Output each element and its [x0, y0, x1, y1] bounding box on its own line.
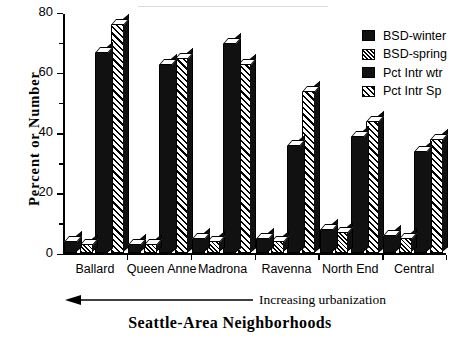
y-tick-minor	[59, 103, 63, 104]
legend-swatch-icon	[362, 86, 375, 97]
y-tick-label: 80	[39, 4, 53, 19]
bar-side-face	[299, 135, 305, 252]
left-arrow-icon	[63, 292, 253, 308]
bar	[64, 241, 77, 253]
bar-side-face	[378, 111, 384, 253]
legend-item: Pct Intr wtr	[362, 64, 447, 81]
y-tick: 0	[57, 254, 63, 255]
x-tick	[191, 255, 192, 260]
bar-side-face	[187, 48, 193, 253]
bar-chart: Percent or Number 020406080 BallardQueen…	[0, 0, 460, 344]
x-category-label: Central	[382, 262, 446, 276]
y-tick-minor	[59, 223, 63, 224]
legend-label: BSD-spring	[383, 47, 447, 61]
x-category-label: Ballard	[63, 262, 127, 276]
x-tick	[127, 255, 128, 260]
y-tick-minor	[59, 43, 63, 44]
x-tick	[382, 255, 383, 260]
urbanization-label: Increasing urbanization	[259, 292, 386, 308]
urbanization-annotation: Increasing urbanization	[63, 292, 446, 310]
x-category-label: Madrona	[191, 262, 255, 276]
y-tick-label: 40	[39, 124, 53, 139]
y-tick: 80	[57, 13, 63, 14]
legend-item: Pct Intr Sp	[362, 83, 447, 100]
bar	[159, 64, 172, 254]
scan-artifact-line	[138, 6, 328, 7]
bar-side-face	[171, 54, 177, 253]
bar-side-face	[123, 14, 129, 252]
y-axis-line	[63, 14, 65, 255]
x-axis-title: Seattle-Area Neighborhoods	[0, 314, 460, 332]
legend-swatch-icon	[362, 30, 375, 41]
bar	[383, 235, 396, 253]
legend-label: BSD-winter	[383, 29, 446, 43]
legend-label: Pct Intr Sp	[383, 84, 441, 98]
y-tick-label: 0	[46, 245, 53, 260]
bar	[256, 238, 269, 253]
bar-side-face	[314, 81, 320, 253]
legend-swatch-icon	[362, 49, 375, 60]
y-tick: 20	[57, 193, 63, 194]
bar-side-face	[235, 32, 241, 252]
y-tick-label: 20	[39, 184, 53, 199]
y-tick: 40	[57, 133, 63, 134]
legend: BSD-winterBSD-springPct Intr wtrPct Intr…	[362, 27, 447, 101]
bar	[320, 229, 333, 253]
bar	[128, 244, 141, 253]
x-category-label: North End	[318, 262, 382, 276]
x-tick	[255, 255, 256, 260]
bar	[192, 238, 205, 253]
y-tick-minor	[59, 163, 63, 164]
legend-label: Pct Intr wtr	[383, 66, 443, 80]
bar-side-face	[426, 141, 432, 252]
bar-side-face	[107, 42, 113, 253]
bar-side-face	[250, 54, 256, 253]
bar-side-face	[363, 126, 369, 253]
bar	[95, 52, 108, 254]
x-tick	[446, 255, 447, 260]
y-tick-label: 60	[39, 64, 53, 79]
y-tick: 60	[57, 73, 63, 74]
legend-swatch-icon	[362, 67, 375, 78]
x-tick	[318, 255, 319, 260]
bar	[223, 43, 236, 254]
x-category-label: Ravenna	[255, 262, 319, 276]
bar-side-face	[442, 129, 448, 253]
x-category-label: Queen Anne	[127, 262, 191, 276]
legend-item: BSD-winter	[362, 27, 447, 44]
legend-item: BSD-spring	[362, 46, 447, 63]
